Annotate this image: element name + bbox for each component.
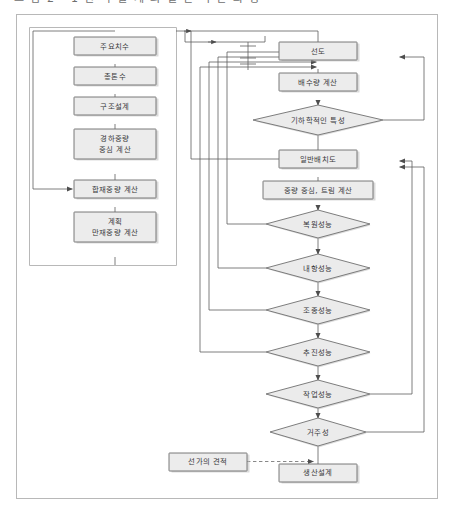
node-lightweight-center[interactable]: 경하중량 중심 계산 [74, 129, 159, 161]
node-label-gross-tonnage: 총톤수 [104, 72, 126, 81]
node-displacement-calc[interactable]: 배수량 계산 [279, 73, 360, 93]
node-weight-center-trim[interactable]: 중량 중심, 트림 계산 [263, 181, 376, 201]
node-label-lightweight-center-line2: 중심 계산 [99, 145, 131, 154]
figure-root: 그 림 2 - 1 선 박 설 계 의 일 반 적 인 과 정 [0, 0, 454, 513]
node-label-planned-full-load-line1: 계획 [108, 217, 123, 226]
node-label-main-dimensions: 주요치수 [100, 42, 129, 51]
node-label-deadweight-calc: 합재중량 계산 [92, 185, 138, 194]
feedback-geometric-to-lines-plan [383, 57, 424, 120]
node-label-work-performance: 작업성능 [303, 390, 332, 399]
node-deadweight-calc[interactable]: 합재중량 계산 [74, 180, 159, 200]
node-gross-tonnage[interactable]: 총톤수 [74, 67, 159, 87]
node-propulsion-performance[interactable]: 추진성능 [266, 338, 371, 368]
node-geometric-properties[interactable]: 기하학적인 특성 [253, 105, 383, 137]
node-label-ship-price-estimate: 선가의 견적 [188, 457, 227, 466]
node-maneuvering-performance[interactable]: 조종성능 [266, 296, 371, 326]
node-structural-design[interactable]: 구조설계 [74, 97, 159, 117]
node-label-lightweight-center-line1: 경하중량 [100, 134, 129, 143]
node-stability-performance[interactable]: 복원성능 [266, 210, 371, 240]
node-general-arrangement[interactable]: 일반배치도 [279, 150, 360, 170]
flowchart-diagram: 주요치수 총톤수 구조설계 경하중량 중심 계산 합재중량 계산 계획 만재 [0, 0, 454, 513]
node-label-habitability: 거주성 [307, 428, 329, 437]
node-label-planned-full-load-line2: 만재중량 계산 [92, 228, 138, 237]
node-label-production-design: 생산설계 [303, 468, 332, 477]
feedback-loops-right [366, 57, 424, 432]
node-label-general-arrangement: 일반배치도 [300, 155, 337, 164]
node-ship-price-estimate[interactable]: 선가의 견적 [169, 453, 250, 473]
node-label-propulsion-performance: 추진성능 [303, 348, 332, 357]
node-label-weight-center-trim: 중량 중심, 트림 계산 [284, 186, 353, 195]
node-habitability[interactable]: 거주성 [270, 418, 367, 448]
node-main-dimensions[interactable]: 주요치수 [74, 37, 159, 57]
node-label-geometric-properties: 기하학적인 특성 [291, 116, 345, 125]
node-label-structural-design: 구조설계 [100, 102, 129, 111]
node-label-lines-plan: 선도 [311, 47, 326, 56]
node-planned-full-load[interactable]: 계획 만재중량 계산 [74, 212, 159, 244]
node-label-displacement-calc: 배수량 계산 [298, 78, 337, 87]
feedback-ga-to-left [191, 31, 279, 159]
node-label-stability-performance: 복원성능 [303, 220, 332, 229]
node-label-maneuvering-performance: 조종성능 [303, 306, 332, 315]
feedback-work-to-ga [370, 161, 412, 394]
feedback-habitability-to-ga [366, 167, 424, 432]
node-seakeeping-performance[interactable]: 내항성능 [266, 254, 371, 284]
node-lines-plan[interactable]: 선도 [279, 42, 360, 62]
node-work-performance[interactable]: 작업성능 [266, 380, 371, 410]
node-label-seakeeping-performance: 내항성능 [303, 264, 332, 273]
node-production-design[interactable]: 생산설계 [279, 464, 360, 484]
